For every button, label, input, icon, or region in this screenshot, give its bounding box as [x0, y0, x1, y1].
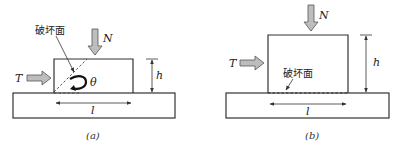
- failure-surface-leader-a: [56, 36, 74, 72]
- failure-surface-label-b: 破坏面: [283, 67, 313, 79]
- angle-theta-label-a: θ: [90, 76, 97, 89]
- panel-b: 破坏面 N T h l (b): [226, 5, 389, 141]
- force-n-arrow-a: [88, 29, 102, 55]
- force-n-label-b: N: [318, 9, 329, 22]
- failure-surface-label-a: 破坏面: [35, 24, 65, 36]
- l-label-b: l: [306, 105, 310, 118]
- h-label-a: h: [156, 69, 163, 82]
- l-label-a: l: [91, 104, 95, 117]
- panel-a: 破坏面 N T θ h l (a): [13, 24, 175, 141]
- failure-surface-leader-b: [286, 79, 293, 90]
- force-n-arrow-b: [304, 5, 318, 31]
- caption-a: (a): [86, 130, 100, 141]
- force-t-arrow-b: [240, 56, 264, 70]
- force-n-label-a: N: [102, 32, 113, 45]
- force-t-label-a: T: [15, 72, 24, 85]
- force-t-arrow-a: [27, 71, 51, 85]
- force-t-label-b: T: [229, 57, 238, 70]
- diagram-canvas: 破坏面 N T θ h l (a) 破坏面 N: [0, 0, 396, 150]
- raised-block-b: [268, 35, 348, 93]
- h-label-b: h: [373, 56, 380, 69]
- caption-b: (b): [305, 130, 319, 141]
